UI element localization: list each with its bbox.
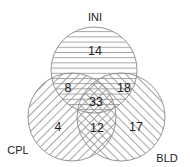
region-cpl-bld: 12 xyxy=(90,121,104,135)
region-cpl-only: 4 xyxy=(55,120,62,134)
venn-diagram: INI CPL BLD 14 8 18 33 4 12 17 xyxy=(0,0,190,167)
region-ini-cpl: 8 xyxy=(65,81,72,95)
set-label-ini: INI xyxy=(88,11,102,23)
region-ini-only: 14 xyxy=(88,44,102,58)
region-ini-bld: 18 xyxy=(117,81,131,95)
set-label-cpl: CPL xyxy=(7,144,28,156)
region-bld-only: 17 xyxy=(129,120,143,134)
set-label-bld: BLD xyxy=(156,152,177,164)
region-ini-cpl-bld: 33 xyxy=(89,95,103,109)
